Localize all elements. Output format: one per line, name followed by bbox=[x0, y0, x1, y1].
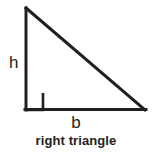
right-triangle-figure: h b right triangle bbox=[0, 0, 152, 153]
figure-caption: right triangle bbox=[0, 134, 152, 147]
height-label: h bbox=[9, 54, 18, 71]
right-angle-marker bbox=[26, 93, 43, 110]
base-label: b bbox=[0, 114, 152, 131]
